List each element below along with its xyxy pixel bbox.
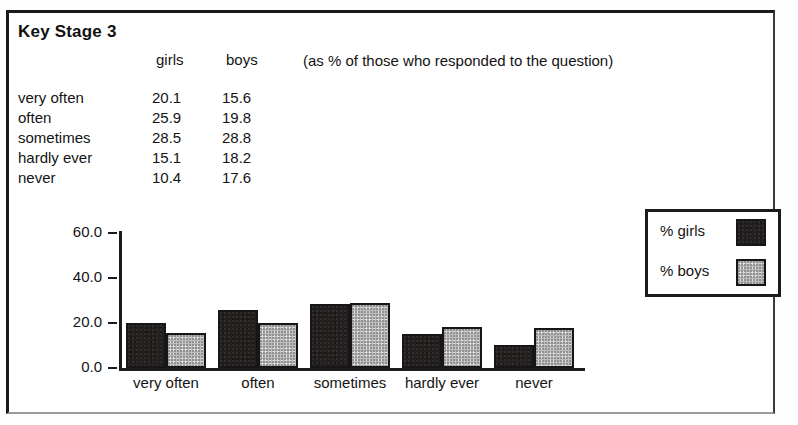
bar-group xyxy=(126,228,206,368)
y-axis-tick-label: 40.0 xyxy=(46,268,102,285)
bar-group xyxy=(310,228,390,368)
bar-boys xyxy=(350,303,390,368)
legend-label: % girls xyxy=(660,222,705,239)
bar-girls xyxy=(218,310,258,368)
y-axis-tick-label: 0.0 xyxy=(46,358,102,375)
y-axis-tick-mark xyxy=(108,367,117,369)
y-axis-line xyxy=(119,231,122,370)
legend-item: % boys xyxy=(648,252,778,296)
bar-boys xyxy=(166,333,206,368)
bar-group xyxy=(402,228,482,368)
legend-item: % girls xyxy=(648,212,778,256)
bar-girls xyxy=(494,345,534,368)
chart-legend: % girls% boys xyxy=(645,209,781,297)
bar-boys xyxy=(442,327,482,368)
legend-swatch xyxy=(736,259,766,286)
y-axis-tick-label: 20.0 xyxy=(46,313,102,330)
y-axis-tick-mark xyxy=(108,277,117,279)
y-axis-tick-mark xyxy=(108,322,117,324)
legend-label: % boys xyxy=(660,262,709,279)
y-axis-tick-label: 60.0 xyxy=(46,223,102,240)
bar-boys xyxy=(534,328,574,368)
bar-group xyxy=(218,228,298,368)
x-axis-line xyxy=(119,368,585,371)
bar-girls xyxy=(310,304,350,368)
y-axis-tick-mark xyxy=(108,232,117,234)
bar-girls xyxy=(402,334,442,368)
scanned-chart-page: Key Stage 3 (as % of those who responded… xyxy=(0,0,798,425)
x-axis-tick-label: never xyxy=(476,374,592,391)
legend-swatch xyxy=(736,219,766,246)
bar-boys xyxy=(258,323,298,368)
bar-group xyxy=(494,228,574,368)
bar-girls xyxy=(126,323,166,368)
